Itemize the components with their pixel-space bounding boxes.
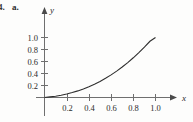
x-tick-label-group: 0.2 0.4 0.6 0.8 1.0 xyxy=(62,103,161,113)
y-tick-label: 0.4 xyxy=(27,69,38,79)
x-tick-label: 1.0 xyxy=(150,103,161,113)
x-tick-label: 0.6 xyxy=(106,103,117,113)
arrow-right-icon xyxy=(170,95,177,101)
y-tick-label-group: 0.2 0.4 0.6 0.8 1.0 xyxy=(27,33,38,91)
data-curve xyxy=(45,38,156,98)
x-tick-label: 0.2 xyxy=(62,103,73,113)
plot-svg: y x 0.2 0.4 0.6 0.8 1.0 0.2 xyxy=(0,0,193,122)
x-tick-label: 0.8 xyxy=(128,103,139,113)
figure-panel: 4. a. y x 0.2 0.4 0.6 0.8 1.0 xyxy=(0,0,193,122)
arrow-up-icon xyxy=(42,7,48,14)
y-tick-label: 0.8 xyxy=(27,45,38,55)
x-axis-label: x xyxy=(181,93,186,103)
y-axis-label: y xyxy=(49,5,54,15)
x-tick-label: 0.4 xyxy=(84,103,95,113)
y-tick-label: 0.2 xyxy=(27,81,38,91)
y-tick-label: 1.0 xyxy=(27,33,38,43)
y-tick-label: 0.6 xyxy=(27,57,38,67)
